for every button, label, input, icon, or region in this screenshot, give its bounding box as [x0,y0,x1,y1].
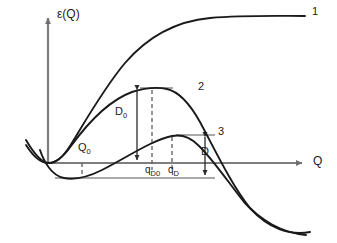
curve-label-1: 1 [312,6,318,17]
curve-label-2: 2 [198,81,204,92]
coordinate-qD-subscript: D [174,169,179,178]
coordinate-qD0-symbol: q [145,164,151,175]
y-axis-label: ε(Q) [57,8,80,20]
coordinate-qD0-label: qD0 [145,165,160,175]
coordinate-qD0-subscript: D0 [151,169,161,178]
curve-2 [26,88,310,233]
barrier-D-symbol: D [201,145,209,157]
coordinate-qD-symbol: q [168,164,174,175]
curves-group [26,16,310,235]
coordinate-Q0-label: Q0 [78,142,91,153]
diagram-canvas [0,0,337,243]
curve-label-3: 3 [218,126,224,137]
barrier-D-label: D [201,146,209,157]
barrier-D0-symbol: D [115,105,123,117]
coordinate-qD-label: qD [168,165,179,175]
barrier-D0-subscript: 0 [123,111,127,120]
coordinate-Q0-subscript: 0 [87,147,91,156]
barrier-D0-label: D0 [115,106,127,117]
coordinate-Q0-symbol: Q [78,141,87,153]
potential-energy-diagram: ε(Q) Q 1 2 3 D0 D Q0 qD0 qD [0,0,337,243]
x-axis-label: Q [313,155,322,167]
